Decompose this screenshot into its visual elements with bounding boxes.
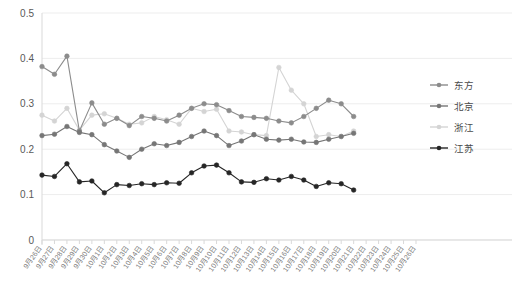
series-line: [42, 67, 354, 136]
data-point: [302, 102, 307, 107]
y-axis-tick-label: 0.4: [20, 53, 34, 64]
data-point: [302, 140, 307, 145]
data-point: [289, 137, 294, 142]
data-point: [102, 142, 107, 147]
data-point: [127, 183, 132, 188]
data-point: [177, 140, 182, 145]
data-point: [65, 106, 70, 111]
data-point: [90, 113, 95, 118]
data-point: [351, 114, 356, 119]
data-point: [189, 106, 194, 111]
data-point: [65, 161, 70, 166]
data-point: [202, 109, 207, 114]
data-point: [314, 184, 319, 189]
data-point: [277, 138, 282, 143]
series-line: [42, 56, 354, 131]
data-point: [164, 181, 169, 186]
data-point: [264, 116, 269, 121]
legend[interactable]: 东方北京浙江江苏: [430, 80, 474, 154]
data-point: [40, 64, 45, 69]
legend-label: 江苏: [454, 143, 474, 154]
series-江苏: [40, 161, 356, 195]
line-chart: 00.10.20.30.40.5 9月26日9月27日9月28日9月29日9月3…: [0, 0, 512, 281]
data-point: [326, 132, 331, 137]
data-point: [264, 137, 269, 142]
legend-item-东方[interactable]: 东方: [430, 80, 474, 91]
data-point: [90, 101, 95, 106]
data-point: [252, 132, 257, 137]
legend-label: 东方: [454, 80, 474, 91]
legend-swatch-marker: [437, 146, 442, 151]
data-point: [314, 140, 319, 145]
data-point: [289, 88, 294, 93]
data-point: [115, 116, 120, 121]
data-point: [189, 171, 194, 176]
data-point: [52, 174, 57, 179]
data-point: [252, 180, 257, 185]
data-point: [52, 72, 57, 77]
data-point: [277, 65, 282, 70]
axes: [42, 13, 512, 245]
data-point: [227, 108, 232, 113]
data-point: [139, 114, 144, 119]
data-point: [214, 102, 219, 107]
series-北京: [40, 124, 356, 159]
data-point: [239, 139, 244, 144]
y-axis-tick-label: 0.2: [20, 144, 34, 155]
data-point: [127, 155, 132, 160]
data-point: [351, 188, 356, 193]
legend-label: 北京: [454, 101, 474, 112]
data-point: [252, 115, 257, 120]
data-point: [302, 178, 307, 183]
chart-canvas: 00.10.20.30.40.5 9月26日9月27日9月28日9月29日9月3…: [0, 0, 512, 281]
data-point: [40, 113, 45, 118]
data-point: [351, 131, 356, 136]
y-axis-tick-label: 0.1: [20, 189, 34, 200]
data-point: [326, 98, 331, 103]
data-point: [214, 133, 219, 138]
data-point: [339, 134, 344, 139]
data-point: [90, 179, 95, 184]
data-point: [102, 122, 107, 127]
data-point: [189, 134, 194, 139]
data-point: [40, 173, 45, 178]
data-point: [277, 178, 282, 183]
data-point: [177, 113, 182, 118]
data-point: [152, 141, 157, 146]
data-point: [326, 137, 331, 142]
legend-swatch-marker: [437, 104, 442, 109]
data-point: [65, 124, 70, 129]
data-point: [164, 143, 169, 148]
data-point: [164, 119, 169, 124]
y-axis-tick-label: 0.5: [20, 8, 34, 19]
data-point: [139, 121, 144, 126]
data-point: [177, 122, 182, 127]
x-axis-tick-labels: 9月26日9月27日9月28日9月29日9月30日10月1日10月2日10月3日…: [21, 244, 417, 274]
series-line: [42, 127, 354, 158]
data-point: [127, 123, 132, 128]
data-point: [214, 107, 219, 112]
data-point: [239, 130, 244, 135]
data-point: [65, 54, 70, 59]
data-point: [90, 132, 95, 137]
legend-item-北京[interactable]: 北京: [430, 101, 474, 112]
data-point: [202, 164, 207, 169]
data-point: [227, 171, 232, 176]
data-point: [339, 102, 344, 107]
data-point: [77, 180, 82, 185]
data-point: [115, 149, 120, 154]
data-point: [115, 182, 120, 187]
data-point: [227, 143, 232, 148]
data-point: [239, 180, 244, 185]
data-point: [326, 181, 331, 186]
y-axis-tick-label: 0: [28, 235, 34, 246]
data-point: [52, 132, 57, 137]
legend-item-浙江[interactable]: 浙江: [430, 122, 474, 133]
y-axis-tick-labels: 00.10.20.30.40.5: [20, 8, 34, 246]
legend-item-江苏[interactable]: 江苏: [430, 143, 474, 154]
data-point: [77, 130, 82, 135]
data-point: [202, 102, 207, 107]
data-point: [314, 134, 319, 139]
data-point: [239, 114, 244, 119]
data-point: [227, 129, 232, 134]
